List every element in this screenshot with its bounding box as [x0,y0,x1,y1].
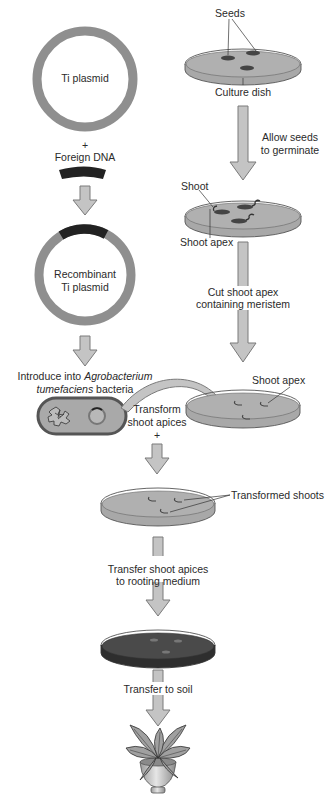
shoot-label: Shoot [181,180,208,192]
potted-plant-icon [126,725,190,793]
foreign-dna-segment [59,167,106,180]
plus-sign-2: + [154,429,160,441]
rooting-label-line2: to rooting medium [116,575,200,587]
cut-label-line1: Cut shoot apex [207,286,280,298]
shoot-apex-label: Shoot apex [180,236,233,248]
culture-dish-label: Culture dish [215,86,271,98]
culture-dish-transformed-shoots [101,488,230,526]
arrow-down-icon [230,106,256,180]
introduce-prefix: Introduce into [18,370,85,382]
germinate-label-line1: Allow seeds [262,131,318,143]
ti-plasmid-label: Ti plasmid [61,72,108,84]
culture-dish-shoots [185,190,301,238]
transform-label-line2: shoot apices [128,416,187,428]
transform-label-line1: Transform [133,403,180,415]
arrow-down-icon [146,670,170,726]
seed-icon [240,65,254,70]
seeds-label: Seeds [215,7,245,19]
tumefaciens-species: tumefaciens [37,383,94,395]
introduce-suffix: bacteria [93,383,133,395]
shoot-apex-label-2: Shoot apex [252,374,305,386]
cut-label-line2: containing meristem [195,298,291,310]
seed-icon [221,55,235,60]
culture-dish-shoot-apices [186,387,300,428]
arrow-down-icon [145,444,169,474]
agrobacterium-genus: Agrobacterium [84,370,152,382]
foreign-dna-label: Foreign DNA [55,151,116,163]
arrow-down-icon [73,186,97,215]
transformed-shoots-label: Transformed shoots [231,489,324,501]
culture-dish-seeds [185,19,301,85]
introduce-label-line1: Introduce into Agrobacterium [18,370,153,382]
rooting-label-line1: Transfer shoot apices [108,563,209,575]
seed-icon [246,50,260,55]
recombinant-plasmid-label-line1: Recombinant [54,268,116,280]
agrobacterium-transformation-diagram [0,0,333,800]
transfer-to-soil-label: Transfer to soil [123,683,192,695]
germinate-label-line2: to germinate [261,144,319,156]
recombinant-plasmid-label-line2: Ti plasmid [61,281,108,293]
agrobacterium-cell [38,398,126,434]
rooting-medium-dish [101,630,215,668]
introduce-label-line2: tumefaciens bacteria [37,383,134,395]
arrow-down-icon [73,336,97,366]
plus-sign: + [82,139,88,151]
plasmid-in-cell-icon [89,408,105,424]
